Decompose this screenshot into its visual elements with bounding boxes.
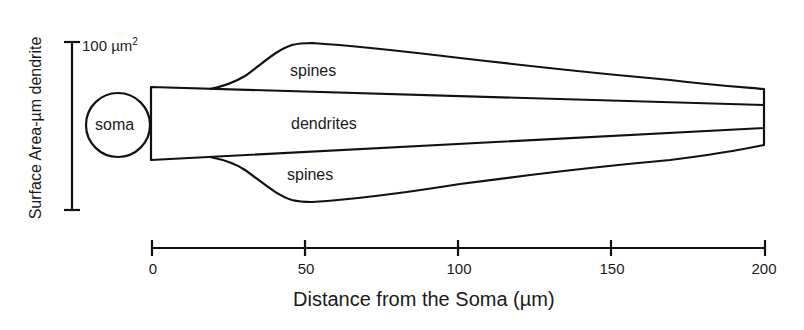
x-tick-100: 100 xyxy=(446,260,471,277)
x-tick-50: 50 xyxy=(298,260,315,277)
spines-top-label: spines xyxy=(290,62,336,80)
soma-label: soma xyxy=(95,116,134,134)
x-tick-0: 0 xyxy=(149,260,157,277)
scale-bar-label: 100 µm2 xyxy=(82,36,138,54)
spines-bottom-shape xyxy=(210,128,764,202)
x-tick-200: 200 xyxy=(751,260,776,277)
dendrite-shape xyxy=(151,87,764,160)
y-axis-label: Surface Area-µm dendrite xyxy=(27,37,45,220)
dendrites-label: dendrites xyxy=(291,115,357,133)
x-tick-150: 150 xyxy=(599,260,624,277)
spines-bottom-label: spines xyxy=(287,166,333,184)
x-axis-label: Distance from the Soma (µm) xyxy=(293,288,555,311)
